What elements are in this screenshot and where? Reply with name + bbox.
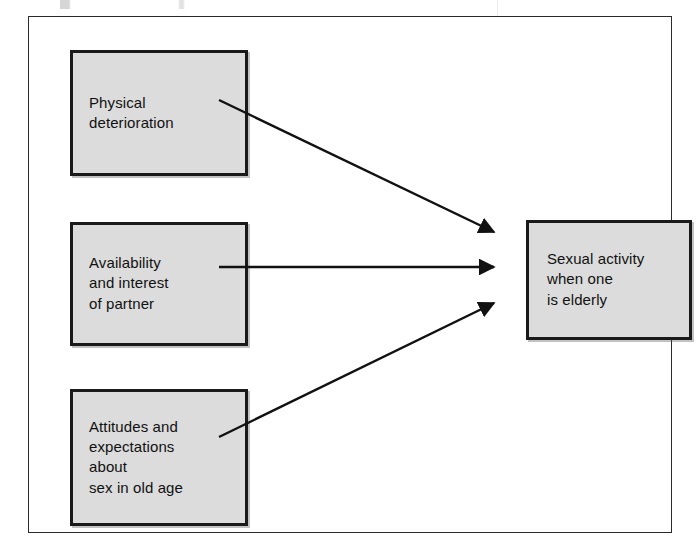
- concept-box-attitudes-expectations: Attitudes and expectations about sex in …: [70, 389, 248, 526]
- cropped-caption-artifact: [60, 0, 260, 9]
- concept-box-availability-of-partner: Availability and interest of partner: [70, 222, 248, 346]
- concept-box-physical-deterioration: Physical deterioration: [70, 50, 248, 176]
- concept-box-label: Physical deterioration: [89, 93, 174, 134]
- concept-box-label: Sexual activity when one is elderly: [547, 249, 644, 310]
- concept-box-label: Attitudes and expectations about sex in …: [89, 417, 183, 499]
- concept-box-label: Availability and interest of partner: [89, 253, 169, 314]
- figure-frame: Physical deterioration Availability and …: [28, 16, 672, 533]
- concept-box-sexual-activity-outcome: Sexual activity when one is elderly: [526, 220, 692, 340]
